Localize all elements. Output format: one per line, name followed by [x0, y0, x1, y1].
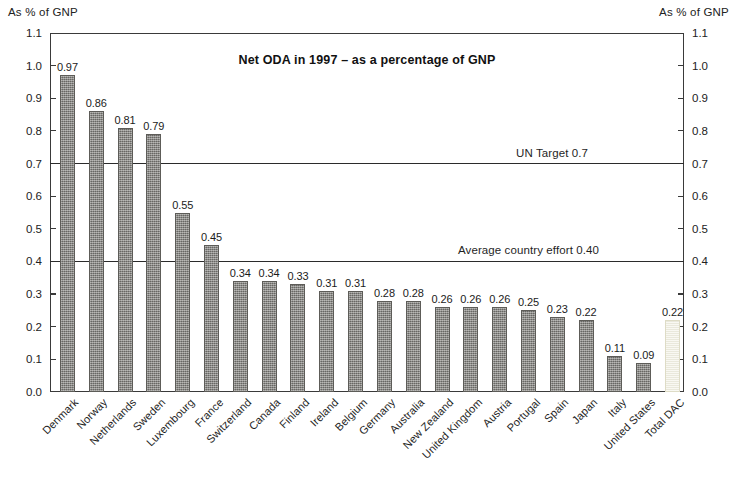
bar-value-label: 0.31: [316, 277, 337, 289]
bar[interactable]: [89, 111, 104, 392]
bar-value-label: 0.26: [489, 293, 510, 305]
category-label: Denmark: [40, 396, 81, 437]
bar[interactable]: [262, 281, 277, 392]
bar-value-label: 0.28: [403, 287, 424, 299]
bar[interactable]: [521, 310, 536, 392]
y-tick-label-left: 0.5: [10, 223, 42, 235]
category-label: Japan: [570, 396, 600, 426]
bar-value-label: 0.79: [143, 120, 164, 132]
bars-container: 0.970.860.810.790.550.450.340.340.330.31…: [50, 33, 684, 392]
y-tick-label-right: 1.0: [692, 60, 708, 72]
bar[interactable]: [290, 284, 305, 392]
bar[interactable]: [435, 307, 450, 392]
y-tick-label-left: 1.0: [10, 60, 42, 72]
y-tick-label-right: 0.3: [692, 288, 708, 300]
bar-value-label: 0.45: [201, 231, 222, 243]
bar-value-label: 0.97: [57, 61, 78, 73]
bar-value-label: 0.81: [115, 114, 136, 126]
bar-group[interactable]: 0.97: [60, 33, 75, 392]
bar-value-label: 0.31: [345, 277, 366, 289]
bar-group[interactable]: 0.22: [579, 33, 594, 392]
bar-group[interactable]: 0.33: [290, 33, 305, 392]
bar[interactable]: [204, 245, 219, 392]
bar[interactable]: [579, 320, 594, 392]
bar[interactable]: [118, 128, 133, 392]
y-tick-label-left: 0.3: [10, 288, 42, 300]
bar-group[interactable]: 0.55: [175, 33, 190, 392]
bar-group[interactable]: 0.26: [463, 33, 478, 392]
y-tick-label-right: 0.1: [692, 353, 708, 365]
bar[interactable]: [377, 301, 392, 392]
bar[interactable]: [665, 320, 680, 392]
y-tick-label-right: 1.1: [692, 27, 708, 39]
bar[interactable]: [550, 317, 565, 392]
bar-value-label: 0.22: [576, 306, 597, 318]
y-tick-label-right: 0.0: [692, 386, 708, 398]
bar-group[interactable]: 0.23: [550, 33, 565, 392]
bar-value-label: 0.26: [460, 293, 481, 305]
bar-value-label: 0.55: [172, 199, 193, 211]
bar-group[interactable]: 0.45: [204, 33, 219, 392]
bar-value-label: 0.26: [432, 293, 453, 305]
category-label: Italy: [605, 396, 628, 419]
y-tick-label-left: 0.7: [10, 158, 42, 170]
bar[interactable]: [60, 75, 75, 392]
bar[interactable]: [636, 363, 651, 392]
category-labels: DenmarkNorwayNetherlandsSwedenLuxembourg…: [50, 392, 684, 492]
bar-group[interactable]: 0.86: [89, 33, 104, 392]
right-axis-caption: As % of GNP: [659, 6, 729, 18]
bar-group[interactable]: 0.11: [607, 33, 622, 392]
y-tick-label-right: 0.6: [692, 190, 708, 202]
category-label: Finland: [277, 396, 311, 430]
bar-value-label: 0.86: [86, 97, 107, 109]
y-tick-label-left: 0.2: [10, 321, 42, 333]
bar[interactable]: [463, 307, 478, 392]
bar[interactable]: [348, 291, 363, 392]
y-tick-label-right: 0.7: [692, 158, 708, 170]
y-tick-label-right: 0.5: [692, 223, 708, 235]
y-tick-label-left: 0.1: [10, 353, 42, 365]
y-tick-label-left: 1.1: [10, 27, 42, 39]
bar-value-label: 0.11: [605, 342, 625, 354]
bar-value-label: 0.28: [374, 287, 395, 299]
y-tick-label-left: 0.0: [10, 386, 42, 398]
bar-value-label: 0.22: [662, 306, 683, 318]
y-tick-label-right: 0.2: [692, 321, 708, 333]
bar-value-label: 0.23: [547, 303, 568, 315]
bar-value-label: 0.33: [287, 270, 308, 282]
bar-group[interactable]: 0.31: [319, 33, 334, 392]
bar[interactable]: [406, 301, 421, 392]
bar-group[interactable]: 0.25: [521, 33, 536, 392]
category-label: Canada: [246, 396, 282, 432]
bar-group[interactable]: 0.31: [348, 33, 363, 392]
bar[interactable]: [607, 356, 622, 392]
left-axis-caption: As % of GNP: [8, 6, 78, 18]
category-label: Spain: [542, 396, 571, 425]
bar-group[interactable]: 0.09: [636, 33, 651, 392]
y-tick-label-right: 0.8: [692, 125, 708, 137]
bar-group[interactable]: 0.26: [492, 33, 507, 392]
bar[interactable]: [175, 213, 190, 393]
bar[interactable]: [146, 134, 161, 392]
bar-group[interactable]: 0.34: [233, 33, 248, 392]
bar-value-label: 0.25: [518, 296, 539, 308]
bar-value-label: 0.09: [633, 349, 654, 361]
y-tick-label-left: 0.4: [10, 255, 42, 267]
bar-group[interactable]: 0.28: [377, 33, 392, 392]
y-tick-label-right: 0.9: [692, 92, 708, 104]
y-tick-label-right: 0.4: [692, 255, 708, 267]
bar-group[interactable]: 0.28: [406, 33, 421, 392]
bar-group[interactable]: 0.81: [118, 33, 133, 392]
bar[interactable]: [319, 291, 334, 392]
y-tick-label-left: 0.8: [10, 125, 42, 137]
y-tick-label-left: 0.9: [10, 92, 42, 104]
bar[interactable]: [233, 281, 248, 392]
bar[interactable]: [492, 307, 507, 392]
bar-group[interactable]: 0.26: [435, 33, 450, 392]
bar-value-label: 0.34: [259, 267, 280, 279]
bar-value-label: 0.34: [230, 267, 251, 279]
y-tick-label-left: 0.6: [10, 190, 42, 202]
bar-group[interactable]: 0.79: [146, 33, 161, 392]
bar-group[interactable]: 0.22: [665, 33, 680, 392]
bar-group[interactable]: 0.34: [262, 33, 277, 392]
